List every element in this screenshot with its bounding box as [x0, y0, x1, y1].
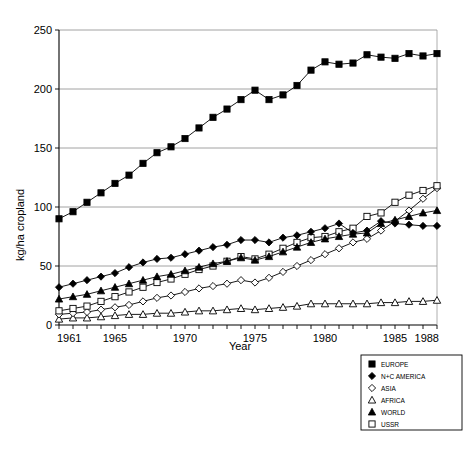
y-axis-title: kg/ha cropland [14, 189, 26, 261]
y-tick-label-50: 50 [40, 260, 52, 272]
data-point [140, 284, 146, 290]
data-point [364, 52, 370, 58]
data-point [84, 303, 90, 309]
x-tick-label-1988: 1988 [415, 332, 439, 344]
data-point [294, 82, 300, 88]
data-point [322, 59, 328, 65]
data-point [420, 53, 426, 59]
legend-item-label: N+C AMERICA [381, 373, 426, 380]
data-point [434, 51, 440, 57]
y-tick-label-250: 250 [34, 24, 52, 36]
legend-marker-icon [369, 361, 375, 367]
data-point [378, 210, 384, 216]
data-point [210, 114, 216, 120]
legend-item-europe[interactable]: EUROPE [369, 361, 409, 368]
data-point [70, 305, 76, 311]
data-point [406, 192, 412, 198]
data-point [56, 216, 62, 222]
data-point [392, 55, 398, 61]
data-point [98, 190, 104, 196]
data-point [98, 298, 104, 304]
x-tick-label-1970: 1970 [173, 332, 197, 344]
data-point [112, 180, 118, 186]
legend-marker-icon [369, 421, 375, 427]
chart-container: 050100150200250 196119651970197519801985… [0, 0, 471, 455]
data-point [252, 87, 258, 93]
data-point [56, 308, 62, 314]
legend-item-label: EUROPE [381, 361, 409, 368]
x-axis-title: Year [229, 340, 252, 352]
chart-legend: EUROPEN+C AMERICAASIAAFRICAWORLDUSSR [361, 355, 462, 430]
y-tick-label-200: 200 [34, 83, 52, 95]
data-point [434, 183, 440, 189]
data-point [126, 289, 132, 295]
y-tick-label-150: 150 [34, 142, 52, 154]
x-tick-label-1965: 1965 [103, 332, 127, 344]
data-point [112, 294, 118, 300]
data-point [406, 51, 412, 57]
x-tick-label-1961: 1961 [57, 332, 81, 344]
data-point [154, 150, 160, 156]
legend-item-asia[interactable]: ASIA [368, 384, 396, 391]
data-point [70, 209, 76, 215]
data-point [140, 160, 146, 166]
data-point [154, 279, 160, 285]
data-point [420, 187, 426, 193]
data-point [364, 213, 370, 219]
y-tick-label-0: 0 [46, 319, 52, 331]
legend-item-label: USSR [381, 421, 399, 428]
data-point [126, 172, 132, 178]
legend-item-ussr[interactable]: USSR [369, 421, 399, 428]
chart-svg: 050100150200250 196119651970197519801985… [0, 0, 471, 455]
y-tick-label-100: 100 [34, 201, 52, 213]
legend-item-label: WORLD [381, 409, 406, 416]
data-point [336, 61, 342, 67]
data-point [392, 199, 398, 205]
data-point [196, 125, 202, 131]
data-point [308, 67, 314, 73]
data-point [266, 97, 272, 103]
data-point [378, 54, 384, 60]
data-point [350, 60, 356, 66]
x-tick-label-1985: 1985 [383, 332, 407, 344]
data-point [224, 106, 230, 112]
legend-item-label: AFRICA [381, 397, 406, 404]
data-point [84, 199, 90, 205]
data-point [182, 135, 188, 141]
x-tick-label-1980: 1980 [313, 332, 337, 344]
data-point [238, 97, 244, 103]
legend-box [361, 355, 462, 430]
data-point [280, 92, 286, 98]
data-point [168, 144, 174, 150]
legend-item-label: ASIA [381, 385, 396, 392]
